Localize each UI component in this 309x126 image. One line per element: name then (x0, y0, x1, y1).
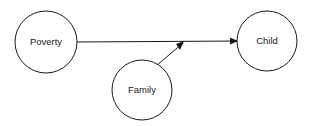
node-poverty-label: Poverty (30, 36, 62, 47)
diagram-svg: Poverty Family Child (0, 0, 309, 126)
node-child-label: Child (256, 35, 278, 46)
diagram-canvas: Poverty Family Child (0, 0, 309, 126)
node-family-label: Family (128, 84, 156, 95)
edge-poverty-to-child (77, 41, 238, 42)
arrowhead-onto-main-path-icon (176, 41, 184, 50)
